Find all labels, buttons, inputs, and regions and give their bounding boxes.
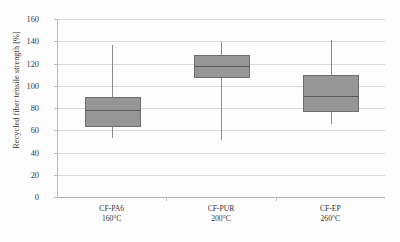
x-tick-mark-2: [276, 197, 277, 201]
y-tick-label-40: 40: [0, 148, 39, 157]
boxplot-cf-pur[interactable]: [167, 19, 276, 197]
median-line: [85, 110, 141, 111]
x-axis-label-cf-ep: CF-EP260°C: [276, 204, 385, 223]
gridline-0: [58, 197, 385, 198]
x-axis-label-cf-pur: CF-PUR200°C: [166, 204, 275, 223]
y-tick-label-20: 20: [0, 170, 39, 179]
y-tick-label-100: 100: [0, 81, 39, 90]
whisker-lower: [221, 78, 222, 140]
whisker-upper: [331, 40, 332, 74]
y-tick-label-60: 60: [0, 126, 39, 135]
boxplot-cf-pa6[interactable]: [58, 19, 167, 197]
boxplot-cf-ep[interactable]: [277, 19, 386, 197]
whisker-upper: [221, 42, 222, 54]
whisker-lower: [331, 112, 332, 123]
y-axis-title: Recycled fiber tensile strength [%]: [12, 0, 26, 190]
whisker-upper: [112, 45, 113, 97]
plot-area: 020406080100120140160: [57, 19, 385, 197]
y-tick-label-160: 160: [0, 15, 39, 24]
box-iqr: [303, 75, 359, 113]
boxplot-figure: Recycled fiber tensile strength [%] 0204…: [0, 0, 400, 242]
box-iqr: [85, 97, 141, 127]
x-label-material: CF-PUR: [166, 204, 275, 214]
y-tick-label-120: 120: [0, 59, 39, 68]
y-tick-label-80: 80: [0, 104, 39, 113]
x-label-temperature: 160°C: [57, 214, 166, 224]
median-line: [303, 96, 359, 97]
x-tick-mark-1: [166, 197, 167, 201]
median-line: [194, 66, 250, 67]
x-label-temperature: 260°C: [276, 214, 385, 224]
y-tick-label-140: 140: [0, 37, 39, 46]
x-label-material: CF-PA6: [57, 204, 166, 214]
y-tick-mark-0: [54, 197, 58, 198]
y-tick-label-0: 0: [0, 193, 39, 202]
x-label-temperature: 200°C: [166, 214, 275, 224]
x-axis-label-cf-pa6: CF-PA6160°C: [57, 204, 166, 223]
whisker-lower: [112, 127, 113, 138]
x-label-material: CF-EP: [276, 204, 385, 214]
